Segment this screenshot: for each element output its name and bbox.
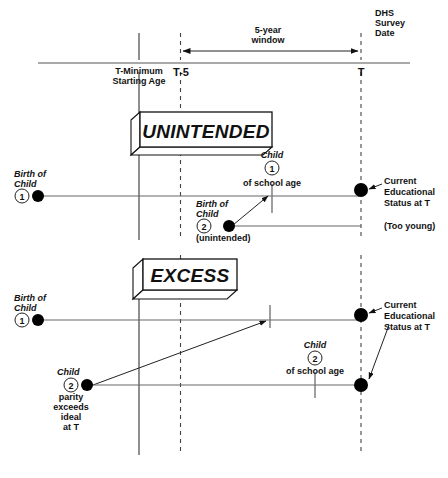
t-minimum-label-line1: T-Minimum bbox=[115, 66, 163, 76]
birth-dot-child-2 bbox=[223, 220, 235, 232]
excess-banner-label: EXCESS bbox=[151, 265, 230, 286]
ideal-label: ideal bbox=[61, 412, 82, 422]
t-label: T bbox=[358, 66, 365, 78]
excess-child-2-parity: Child 2 parity exceeds ideal at T bbox=[53, 367, 93, 432]
unintended-banner: UNINTENDED bbox=[131, 112, 272, 155]
circle-number-1-text: 1 bbox=[19, 192, 24, 202]
vertical-reference-lines bbox=[139, 33, 361, 455]
excess-banner-bottom-face bbox=[133, 290, 237, 299]
birth-of-label-1: Birth of bbox=[14, 169, 47, 179]
excess-parity-arrow bbox=[93, 321, 266, 385]
parity-dot-child-2 bbox=[81, 379, 93, 391]
birth-of-label-3: Birth of bbox=[14, 293, 47, 303]
child-label-1: Child bbox=[14, 179, 37, 189]
timeline-diagram: 5-year window DHS Survey Date T-Minimum … bbox=[0, 0, 448, 478]
excess-banner: EXCESS bbox=[133, 259, 237, 299]
current-label-2: Current bbox=[384, 300, 417, 310]
five-year-label-line2: window bbox=[251, 35, 286, 45]
excess-current-status: Current Educational Status at T bbox=[354, 300, 435, 392]
timeline-axis: 5-year window DHS Survey Date T-Minimum … bbox=[38, 8, 410, 86]
current-label-1: Current bbox=[384, 176, 417, 186]
circle-number-2c-text: 2 bbox=[312, 354, 317, 364]
dhs-label: DHS bbox=[375, 8, 394, 18]
excess-birth-child-1: Birth of Child 1 bbox=[14, 293, 47, 327]
parity-label: parity bbox=[59, 392, 84, 402]
unintended-current-status: Current Educational Status at T bbox=[354, 176, 435, 208]
circle-number-2b-text: 2 bbox=[68, 381, 73, 391]
survey-label: Survey bbox=[375, 18, 405, 28]
educational-label-2: Educational bbox=[384, 311, 435, 321]
diagram-root: 5-year window DHS Survey Date T-Minimum … bbox=[0, 0, 448, 478]
child-label-2: Child bbox=[196, 209, 219, 219]
status-dot-2a bbox=[354, 308, 368, 322]
unintended-child1-school-age: Child 1 of school age bbox=[243, 150, 301, 213]
excess-child-2-school-age: Child 2 of school age bbox=[286, 340, 344, 398]
status-arrow-2a bbox=[369, 308, 382, 313]
status-at-t-label-2: Status at T bbox=[384, 322, 431, 332]
status-arrow-1 bbox=[369, 184, 382, 189]
child-schoolage-label-1: Child bbox=[261, 150, 284, 160]
birth-dot-child-1-excess bbox=[32, 314, 44, 326]
unintended-child2-arrow bbox=[233, 196, 268, 225]
panel-unintended: UNINTENDED Birth of Child 1 Child 1 of s… bbox=[14, 112, 435, 243]
unintended-banner-bottom-face bbox=[131, 147, 272, 155]
circle-number-1c-text: 1 bbox=[19, 316, 24, 326]
birth-of-label-2: Birth of bbox=[196, 199, 229, 209]
date-label: Date bbox=[375, 28, 395, 38]
status-dot-2b bbox=[354, 378, 368, 392]
unintended-paren-label: (unintended) bbox=[196, 233, 251, 243]
status-at-t-label-1: Status at T bbox=[384, 198, 431, 208]
birth-dot-child-1 bbox=[32, 190, 44, 202]
unintended-birth-child-2: Birth of Child 2 (unintended) bbox=[196, 196, 361, 243]
child-label-3: Child bbox=[14, 303, 37, 313]
educational-label-1: Educational bbox=[384, 187, 435, 197]
panel-excess: EXCESS Birth of Child 1 Child bbox=[14, 259, 435, 432]
child-parity-label: Child bbox=[57, 367, 80, 377]
child-schoolage-label-2: Child bbox=[304, 340, 327, 350]
unintended-birth-child-1: Birth of Child 1 bbox=[14, 169, 47, 203]
five-year-label-line1: 5-year bbox=[255, 25, 282, 35]
t-minus-5-label: T-5 bbox=[173, 66, 189, 78]
circle-number-2-text: 2 bbox=[201, 222, 206, 232]
of-school-age-label-2: of school age bbox=[286, 366, 344, 376]
status-dot-1 bbox=[354, 183, 368, 197]
at-t-label: at T bbox=[63, 422, 80, 432]
unintended-banner-label: UNINTENDED bbox=[142, 121, 270, 142]
exceeds-label: exceeds bbox=[53, 402, 89, 412]
t-minimum-label-line2: Starting Age bbox=[112, 76, 165, 86]
circle-number-1b-text: 1 bbox=[269, 164, 274, 174]
status-arrow-2b bbox=[369, 325, 389, 379]
of-school-age-label-1: of school age bbox=[243, 178, 301, 188]
too-young-label: (Too young) bbox=[384, 221, 435, 231]
